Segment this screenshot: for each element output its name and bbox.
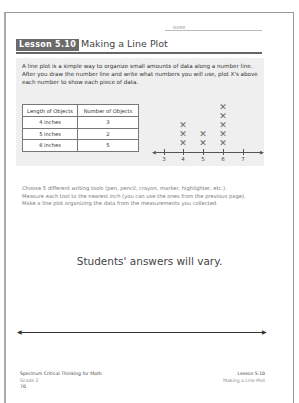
- table-row: 5 inches 2: [23, 128, 139, 140]
- x-mark-icon: ✕: [218, 130, 228, 138]
- table-row: 4 inches 3: [23, 117, 139, 129]
- table-cell: 5: [78, 140, 139, 152]
- lesson-title: Making a Line Plot: [81, 38, 168, 49]
- x-mark-icon: ✕: [198, 130, 208, 138]
- page-number: 70: [20, 384, 102, 391]
- x-mark-icon: ✕: [218, 103, 228, 111]
- instruction-line: Make a line plot organizing the data fro…: [22, 200, 282, 208]
- data-table: Length of Objects Number of Objects 4 in…: [22, 104, 139, 152]
- arrow-right-icon: ▶: [260, 150, 264, 155]
- lesson-badge: Lesson 5.10: [16, 39, 79, 51]
- tick-mark: [223, 149, 224, 155]
- table-cell: 6 inches: [23, 140, 78, 152]
- tick-mark: [183, 149, 184, 155]
- name-field-line: [165, 30, 262, 31]
- table-header-row: Length of Objects Number of Objects: [23, 105, 139, 117]
- table-header: Length of Objects: [23, 105, 78, 117]
- tick-label: 5: [198, 156, 208, 162]
- table-cell: 4 inches: [23, 117, 78, 129]
- tick-label: 4: [178, 156, 188, 162]
- table-row: 6 inches 5: [23, 140, 139, 152]
- title-divider: [16, 52, 262, 54]
- tick-label: 7: [238, 156, 248, 162]
- instructions: Choose 5 different writing tools (pen, p…: [22, 185, 282, 208]
- instruction-line: Measure each tool to the nearest inch (y…: [22, 193, 282, 201]
- footer-lesson-title: Making a Line Plot: [223, 378, 265, 385]
- tick-mark: [203, 149, 204, 155]
- table-cell: 3: [78, 117, 139, 129]
- x-mark-icon: ✕: [198, 139, 208, 147]
- tick-mark: [243, 149, 244, 155]
- number-line-axis: [156, 152, 262, 153]
- x-mark-icon: ✕: [178, 121, 188, 129]
- book-title: Spectrum Critical Thinking for Math: [20, 371, 102, 378]
- tick-mark: [164, 149, 165, 155]
- tick-label: 3: [159, 156, 169, 162]
- table-cell: 2: [78, 128, 139, 140]
- instruction-line: Choose 5 different writing tools (pen, p…: [22, 185, 282, 193]
- blank-number-line: [20, 332, 266, 333]
- x-mark-icon: ✕: [218, 121, 228, 129]
- table-header: Number of Objects: [78, 105, 139, 117]
- x-mark-icon: ✕: [218, 139, 228, 147]
- tick-label: 6: [218, 156, 228, 162]
- footer-left: Spectrum Critical Thinking for Math Grad…: [20, 371, 102, 391]
- x-mark-icon: ✕: [178, 130, 188, 138]
- arrow-right-icon: ▶: [262, 329, 267, 335]
- x-mark-icon: ✕: [218, 112, 228, 120]
- table-cell: 5 inches: [23, 128, 78, 140]
- line-plot: ◀ ▶ 3 4 5 6 7 ✕ ✕ ✕ ✕ ✕ ✕ ✕ ✕ ✕ ✕: [150, 82, 275, 162]
- footer-right: Lesson 5.10 Making a Line Plot: [223, 371, 265, 384]
- answer-note: Students' answers will vary.: [0, 255, 299, 267]
- x-mark-icon: ✕: [178, 139, 188, 147]
